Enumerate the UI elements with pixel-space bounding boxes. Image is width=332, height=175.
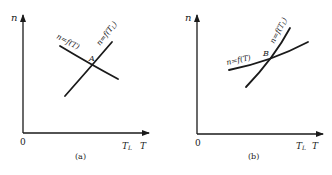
x-axis-label-tl: TL xyxy=(122,141,132,151)
diagram-canvas: n 0 TL T (a) n=f(T) n=f(TL) A n 0 TL T (… xyxy=(0,0,332,175)
x-axis-label-tl: TL xyxy=(296,141,306,151)
panel-caption: (b) xyxy=(248,152,259,161)
load-curve-label: n=f(TL) xyxy=(94,20,118,48)
panel-a: n 0 TL T (a) n=f(T) n=f(TL) A xyxy=(11,12,149,161)
intersection-point-label: A xyxy=(88,54,95,63)
load-curve-label: n=f(TL) xyxy=(268,16,289,45)
panel-caption: (a) xyxy=(75,152,86,161)
intersection-point-label: B xyxy=(262,49,269,58)
y-axis-label: n xyxy=(11,12,17,23)
panel-b: n 0 TL T (b) n=f(T) n=f(TL) B xyxy=(185,12,323,161)
x-axis-label-t: T xyxy=(312,141,319,151)
origin-label: 0 xyxy=(195,138,201,148)
origin-label: 0 xyxy=(20,137,26,147)
x-axis-label-t: T xyxy=(140,141,147,151)
load-curve xyxy=(65,42,112,96)
motor-curve-label: n=f(T) xyxy=(55,32,81,52)
y-axis-label: n xyxy=(185,12,191,23)
